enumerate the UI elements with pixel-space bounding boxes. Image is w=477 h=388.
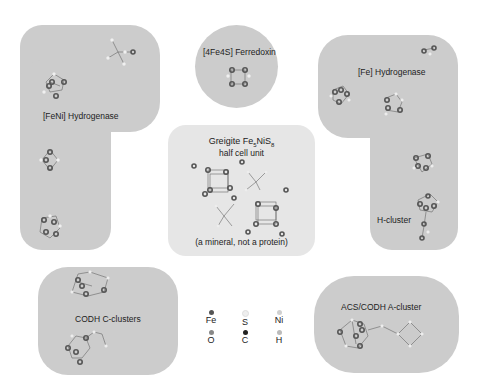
acs-molecule xyxy=(334,316,434,356)
h-cluster-molecule-2 xyxy=(412,190,446,246)
fe-hydrogenase-molecule-1 xyxy=(420,42,440,58)
h-cluster-label: H-cluster xyxy=(377,215,411,225)
fe-hydrogenase-molecule-3 xyxy=(380,90,410,118)
fe-hydrogenase-molecule-2 xyxy=(327,82,357,110)
feni-title: [FeNi] Hydrogenase xyxy=(43,111,119,121)
legend-item-s: S xyxy=(230,310,260,327)
feni-molecule-4 xyxy=(36,212,66,242)
greigite-structure xyxy=(190,160,310,235)
s-swatch-icon xyxy=(242,310,249,317)
greigite-subtitle: half cell unit xyxy=(168,148,315,158)
ferredoxin-title: [4Fe4S] Ferredoxin xyxy=(203,47,276,57)
legend-item-o: O xyxy=(196,330,226,345)
legend-item-fe: Fe xyxy=(196,310,226,325)
acs-title: ACS/CODH A-cluster xyxy=(341,302,421,312)
element-legend: Fe S Ni O C H xyxy=(196,300,294,356)
codh-title: CODH C-clusters xyxy=(75,314,141,324)
codh-molecule-1 xyxy=(68,270,114,302)
legend-item-c: C xyxy=(230,330,260,345)
ferredoxin-molecule xyxy=(225,64,253,92)
greigite-note: (a mineral, not a protein) xyxy=(168,237,315,247)
feni-molecule-2 xyxy=(40,70,70,100)
codh-molecule-2 xyxy=(62,328,118,368)
fe-hydrogenase-title: [Fe] Hydrogenase xyxy=(358,67,426,77)
greigite-title: Greigite Fe5NiS8 xyxy=(168,136,315,148)
feni-molecule-3 xyxy=(38,148,66,176)
feni-molecule-1 xyxy=(100,38,140,68)
h-cluster-molecule-1 xyxy=(408,148,438,176)
legend-item-h: H xyxy=(264,330,294,345)
legend-item-ni: Ni xyxy=(264,310,294,325)
